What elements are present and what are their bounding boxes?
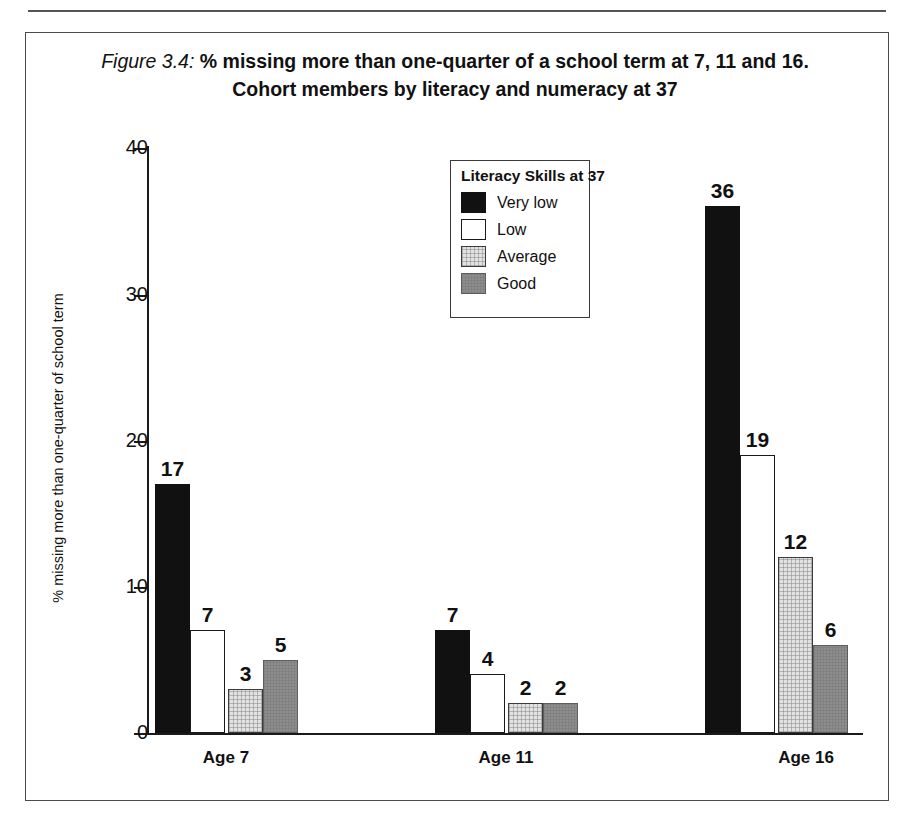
- legend-item-low: Low: [461, 216, 589, 243]
- x-axis-label-age-16: Age 16: [726, 748, 886, 768]
- legend-title: Literacy Skills at 37: [461, 167, 589, 185]
- bar-age16-low: 19: [740, 455, 775, 733]
- legend-label-good: Good: [497, 275, 536, 293]
- legend-swatch-low: [461, 219, 486, 240]
- bar-value-age7-very-low: 17: [161, 457, 184, 481]
- legend-swatch-very-low: [461, 192, 486, 213]
- bar-value-age11-good: 2: [555, 676, 567, 700]
- bar-value-age7-average: 3: [240, 662, 252, 686]
- y-tick-label-20: 20: [108, 429, 148, 452]
- bar-age16-very-low: 36: [705, 206, 740, 733]
- bar-value-age7-low: 7: [202, 603, 214, 627]
- x-axis-label-age-7: Age 7: [146, 748, 306, 768]
- legend-swatch-good: [461, 273, 486, 294]
- legend-item-very-low: Very low: [461, 189, 589, 216]
- bar-age7-very-low: 17: [155, 484, 190, 733]
- bar-age11-low: 4: [470, 674, 505, 733]
- bar-age16-average: 12: [778, 557, 813, 733]
- legend-item-good: Good: [461, 270, 589, 297]
- bar-chart-plot-area: 0 10 20 30 40 % missing more than one-qu…: [0, 0, 910, 827]
- legend: Literacy Skills at 37 Very low Low Avera…: [450, 160, 590, 318]
- bar-value-age16-average: 12: [784, 530, 807, 554]
- bar-value-age11-very-low: 7: [447, 603, 459, 627]
- y-tick-label-10: 10: [108, 575, 148, 598]
- bar-value-age11-low: 4: [482, 647, 494, 671]
- legend-label-low: Low: [497, 221, 526, 239]
- legend-swatch-average: [461, 246, 486, 267]
- legend-label-average: Average: [497, 248, 556, 266]
- bar-value-age7-good: 5: [275, 633, 287, 657]
- y-tick-label-30: 30: [108, 283, 148, 306]
- bar-age7-low: 7: [190, 630, 225, 733]
- bar-age7-average: 3: [228, 689, 263, 733]
- legend-label-very-low: Very low: [497, 194, 557, 212]
- bar-age11-average: 2: [508, 703, 543, 733]
- bar-age16-good: 6: [813, 645, 848, 733]
- bar-value-age16-low: 19: [746, 428, 769, 452]
- y-tick-label-40: 40: [108, 136, 148, 159]
- x-axis-label-age-11: Age 11: [426, 748, 586, 768]
- x-axis-line: [147, 733, 863, 735]
- legend-item-average: Average: [461, 243, 589, 270]
- bar-value-age11-average: 2: [520, 676, 532, 700]
- bar-value-age16-very-low: 36: [711, 179, 734, 203]
- figure-page: Figure 3.4: % missing more than one-quar…: [0, 0, 910, 827]
- bar-age7-good: 5: [263, 660, 298, 733]
- bar-age11-very-low: 7: [435, 630, 470, 733]
- y-axis-title: % missing more than one-quarter of schoo…: [50, 168, 66, 728]
- y-tick-label-0: 0: [108, 721, 148, 744]
- bar-value-age16-good: 6: [825, 618, 837, 642]
- bar-age11-good: 2: [543, 703, 578, 733]
